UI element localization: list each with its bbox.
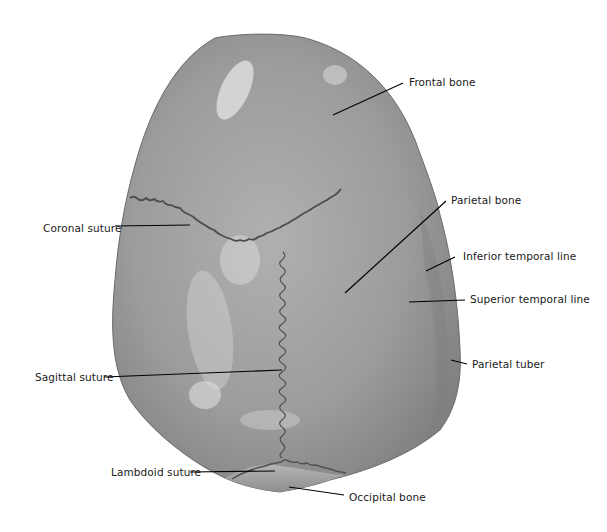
skull-illustration xyxy=(0,0,607,532)
label-frontal-bone: Frontal bone xyxy=(409,76,476,88)
label-parietal-bone: Parietal bone xyxy=(451,194,521,206)
frontal-highlight-2 xyxy=(323,65,347,85)
left-parietal-highlight-2 xyxy=(189,381,221,409)
label-superior-temporal-line: Superior temporal line xyxy=(470,293,590,305)
label-occipital-bone: Occipital bone xyxy=(349,491,426,503)
skull-superior-view-figure: Frontal bone Parietal bone Inferior temp… xyxy=(0,0,607,532)
occipital-bone-leader xyxy=(289,487,344,495)
center-highlight xyxy=(220,235,260,285)
label-parietal-tuber: Parietal tuber xyxy=(472,358,544,370)
lower-highlight xyxy=(240,410,300,430)
label-inferior-temporal-line: Inferior temporal line xyxy=(463,250,576,262)
label-lambdoid-suture: Lambdoid suture xyxy=(111,466,201,478)
label-sagittal-suture: Sagittal suture xyxy=(35,371,114,383)
label-coronal-suture: Coronal suture xyxy=(43,222,121,234)
